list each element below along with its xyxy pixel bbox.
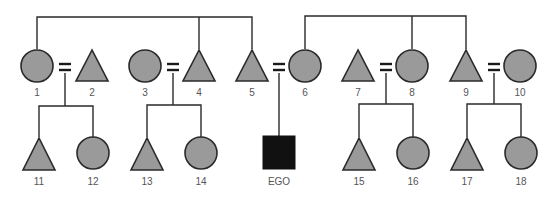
marriage-5-6 bbox=[273, 64, 285, 136]
ego-label: EGO bbox=[268, 176, 290, 187]
person-1: 1 bbox=[21, 50, 53, 98]
person-15: 15 bbox=[343, 138, 375, 187]
person-label: 2 bbox=[89, 87, 95, 98]
person-14: 14 bbox=[185, 137, 217, 187]
person-label: 8 bbox=[409, 87, 415, 98]
female-circle-icon bbox=[504, 50, 536, 82]
person-9: 9 bbox=[450, 50, 482, 98]
female-circle-icon bbox=[289, 50, 321, 82]
person-10: 10 bbox=[504, 50, 536, 98]
female-circle-icon bbox=[77, 137, 109, 169]
person-label: 11 bbox=[34, 176, 45, 187]
person-label: 4 bbox=[196, 87, 202, 98]
person-2: 2 bbox=[76, 50, 108, 98]
person-12: 12 bbox=[77, 137, 109, 187]
sibling-group-right bbox=[305, 16, 466, 49]
person-ego: EGO bbox=[263, 136, 295, 187]
female-circle-icon bbox=[397, 137, 429, 169]
person-18: 18 bbox=[505, 137, 537, 187]
person-label: 6 bbox=[302, 87, 308, 98]
person-7: 7 bbox=[342, 50, 374, 98]
male-triangle-icon bbox=[451, 138, 483, 170]
person-16: 16 bbox=[397, 137, 429, 187]
person-label: 15 bbox=[353, 176, 365, 187]
ego-square-icon bbox=[263, 136, 295, 169]
person-label: 12 bbox=[87, 176, 99, 187]
male-triangle-icon bbox=[23, 138, 55, 170]
female-circle-icon bbox=[129, 50, 161, 82]
person-17: 17 bbox=[451, 138, 483, 187]
male-triangle-icon bbox=[236, 50, 268, 81]
female-circle-icon bbox=[396, 50, 428, 82]
person-label: 14 bbox=[195, 176, 207, 187]
person-label: 17 bbox=[461, 176, 473, 187]
person-11: 11 bbox=[23, 138, 55, 187]
person-label: 7 bbox=[355, 87, 361, 98]
person-label: 3 bbox=[142, 87, 148, 98]
male-triangle-icon bbox=[450, 50, 482, 81]
person-3: 3 bbox=[129, 50, 161, 98]
person-8: 8 bbox=[396, 50, 428, 98]
person-label: 5 bbox=[249, 87, 255, 98]
sibling-group-left bbox=[37, 17, 252, 49]
male-triangle-icon bbox=[342, 50, 374, 81]
male-triangle-icon bbox=[183, 50, 215, 81]
female-circle-icon bbox=[21, 50, 53, 82]
person-label: 1 bbox=[34, 87, 40, 98]
person-13: 13 bbox=[131, 138, 163, 187]
person-6: 6 bbox=[289, 50, 321, 98]
female-circle-icon bbox=[185, 137, 217, 169]
person-label: 9 bbox=[463, 87, 469, 98]
person-label: 16 bbox=[407, 176, 419, 187]
person-4: 4 bbox=[183, 50, 215, 98]
person-label: 13 bbox=[141, 176, 153, 187]
male-triangle-icon bbox=[131, 138, 163, 170]
male-triangle-icon bbox=[343, 138, 375, 170]
male-triangle-icon bbox=[76, 50, 108, 81]
person-label: 18 bbox=[515, 176, 527, 187]
kinship-diagram: 1 2 3 4 5 6 7 8 9 10 11 12 bbox=[0, 0, 556, 200]
person-5: 5 bbox=[236, 50, 268, 98]
female-circle-icon bbox=[505, 137, 537, 169]
person-label: 10 bbox=[514, 87, 526, 98]
